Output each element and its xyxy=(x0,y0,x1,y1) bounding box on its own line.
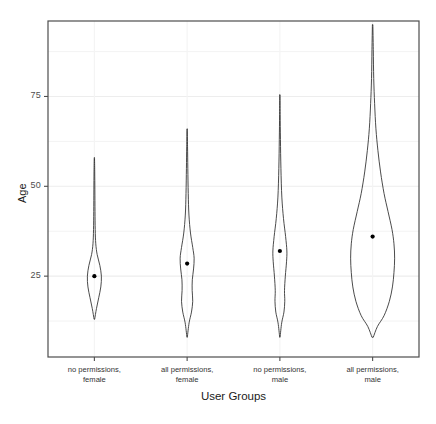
mean-point xyxy=(92,274,96,278)
x-axis-category-label: all permissions,male xyxy=(326,365,419,384)
category-label-line: female xyxy=(48,375,141,385)
x-axis-category-label: all permissions,female xyxy=(141,365,234,384)
violin-chart: 255075 Age no permissions,femaleall perm… xyxy=(0,0,436,424)
violin-shapes xyxy=(87,25,394,338)
x-axis-title: User Groups xyxy=(48,390,419,402)
y-axis-tick-label: 75 xyxy=(31,90,41,100)
category-label-line: no permissions, xyxy=(234,365,327,375)
y-axis-title: Age xyxy=(16,183,28,203)
mean-point xyxy=(185,261,189,265)
gridlines xyxy=(48,21,419,357)
panel-border xyxy=(48,21,419,357)
mean-point xyxy=(371,235,375,239)
category-label-line: male xyxy=(234,375,327,385)
x-axis-category-label: no permissions,female xyxy=(48,365,141,384)
x-axis-category-label: no permissions,male xyxy=(234,365,327,384)
y-axis-tick-label: 50 xyxy=(31,180,41,190)
category-label-line: female xyxy=(141,375,234,385)
mean-points xyxy=(92,235,374,279)
category-label-line: all permissions, xyxy=(326,365,419,375)
y-axis-tick-label: 25 xyxy=(31,270,41,280)
mean-point xyxy=(278,249,282,253)
chart-canvas xyxy=(0,0,436,424)
category-label-line: no permissions, xyxy=(48,365,141,375)
category-label-line: male xyxy=(326,375,419,385)
category-label-line: all permissions, xyxy=(141,365,234,375)
